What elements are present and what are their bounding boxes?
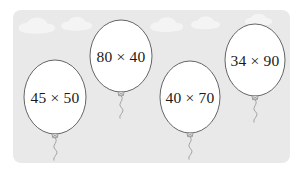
balloon-expression-label: 34 × 90 bbox=[231, 52, 280, 69]
worksheet-canvas: 45 × 5080 × 4040 × 7034 × 90 bbox=[0, 0, 302, 176]
balloon-expression-label: 40 × 70 bbox=[166, 89, 215, 106]
balloon-expression-label: 45 × 50 bbox=[31, 89, 80, 106]
balloon-expression-label: 80 × 40 bbox=[97, 48, 146, 65]
cloud-puff bbox=[193, 23, 217, 29]
cloud-puff bbox=[63, 24, 89, 30]
balloon-scene: 45 × 5080 × 4040 × 7034 × 90 bbox=[0, 0, 302, 176]
cloud-puff bbox=[21, 26, 51, 34]
cloud-puff bbox=[153, 25, 180, 32]
